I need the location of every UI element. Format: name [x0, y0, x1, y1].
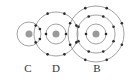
electron — [39, 28, 42, 31]
electron — [87, 50, 90, 53]
electron — [102, 15, 105, 18]
electron — [84, 59, 87, 62]
electron — [112, 25, 115, 28]
atom-label-d: D — [52, 62, 60, 74]
electron — [34, 41, 37, 44]
nucleus — [53, 31, 60, 38]
atom-label-c: C — [24, 62, 31, 74]
electron — [63, 53, 66, 56]
electron — [105, 7, 108, 10]
electron — [39, 38, 42, 41]
electron — [84, 7, 87, 10]
electron — [77, 40, 80, 43]
electron — [69, 43, 72, 46]
atom-diagram — [0, 0, 132, 80]
electron — [69, 22, 72, 25]
electron — [63, 12, 66, 15]
electron — [87, 15, 90, 18]
electron — [46, 12, 49, 15]
electron — [121, 22, 124, 25]
electron — [45, 33, 48, 36]
atom-d — [34, 12, 78, 56]
electron — [34, 24, 37, 27]
electron — [105, 59, 108, 62]
electron — [65, 33, 68, 36]
nucleus — [26, 31, 33, 38]
electron — [46, 53, 49, 56]
atom-b — [68, 6, 124, 62]
electron — [121, 43, 124, 46]
atom-label-b: B — [93, 62, 100, 74]
electron — [85, 33, 88, 36]
electron — [105, 33, 108, 36]
electron — [77, 25, 80, 28]
electron — [112, 40, 115, 43]
electron — [102, 50, 105, 53]
nucleus — [93, 31, 100, 38]
atom-c — [17, 22, 41, 46]
